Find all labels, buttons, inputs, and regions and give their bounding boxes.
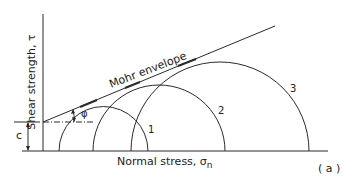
x-axis-label: Normal stress, σn [117,155,213,170]
panel-label: ( a ) [318,162,340,175]
envelope-label: Mohr envelope [107,49,188,91]
tangent-segment-1 [80,100,97,107]
mohr-envelope-line [43,26,275,122]
x-axis-subscript: n [207,160,213,170]
phi-label: φ [81,108,88,119]
y-axis-label: Shear strength, τ [25,34,38,130]
arrow-down-icon [26,146,30,151]
circle-1-label: 1 [148,124,154,135]
x-axis-label-text: Normal stress, σ [117,155,207,168]
circle-2-label: 2 [218,105,224,116]
mohr-circle-2 [93,85,225,151]
circle-3-label: 3 [290,83,296,94]
mohr-diagram: Shear strength, τ c φ Mohr envelope 1 2 … [0,0,354,179]
cohesion-label: c [16,129,22,142]
